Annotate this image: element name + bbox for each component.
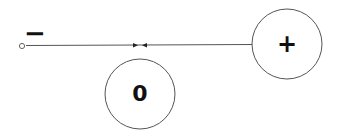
connection-line xyxy=(26,45,252,46)
arrowhead-right-icon xyxy=(133,43,138,48)
arrowhead-left-icon xyxy=(142,43,147,48)
minus-label: − xyxy=(24,20,44,46)
diagram-canvas xyxy=(0,0,340,136)
plus-label: + xyxy=(272,29,302,59)
zero-label: 0 xyxy=(125,79,155,109)
